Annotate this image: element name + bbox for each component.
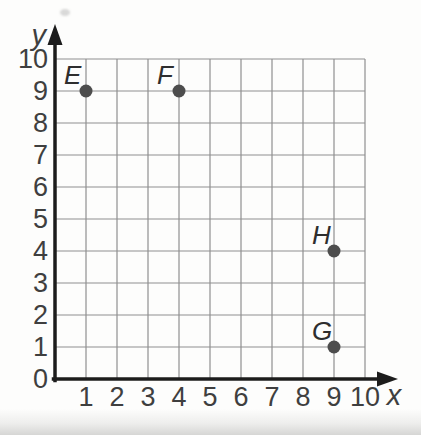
x-tick-label-1: 1 bbox=[78, 382, 93, 412]
x-axis-label: x bbox=[385, 379, 403, 411]
x-tick-label-6: 6 bbox=[233, 382, 248, 412]
y-tick-label-6: 6 bbox=[33, 172, 48, 202]
y-axis-label: y bbox=[30, 19, 48, 51]
x-tick-label-4: 4 bbox=[171, 382, 186, 412]
data-point-F bbox=[173, 85, 186, 98]
data-points-layer: EFHG bbox=[64, 60, 341, 354]
y-axis-arrowhead bbox=[48, 24, 63, 45]
point-label-H: H bbox=[312, 220, 331, 250]
x-tick-label-7: 7 bbox=[264, 382, 279, 412]
point-label-F: F bbox=[157, 60, 175, 90]
x-tick-label-5: 5 bbox=[202, 382, 217, 412]
y-tick-label-3: 3 bbox=[33, 268, 48, 298]
y-tick-label-2: 2 bbox=[33, 300, 48, 330]
y-tick-label-5: 5 bbox=[33, 204, 48, 234]
x-tick-label-10: 10 bbox=[350, 382, 380, 412]
coordinate-grid-svg: 012345678910 12345678910 EFHG y x bbox=[0, 0, 421, 435]
x-tick-label-2: 2 bbox=[109, 382, 124, 412]
y-tick-label-1: 1 bbox=[33, 332, 48, 362]
point-label-E: E bbox=[64, 60, 82, 90]
y-tick-label-8: 8 bbox=[33, 108, 48, 138]
y-tick-label-0: 0 bbox=[33, 364, 48, 394]
x-tick-label-3: 3 bbox=[140, 382, 155, 412]
coordinate-plane-figure: 012345678910 12345678910 EFHG y x bbox=[0, 0, 421, 435]
scan-smudge bbox=[60, 9, 70, 16]
y-tick-labels: 012345678910 bbox=[18, 44, 48, 394]
y-tick-label-9: 9 bbox=[33, 76, 48, 106]
y-tick-label-4: 4 bbox=[33, 236, 48, 266]
data-point-E bbox=[80, 85, 93, 98]
point-label-G: G bbox=[312, 316, 332, 346]
x-tick-label-9: 9 bbox=[326, 382, 341, 412]
x-tick-labels: 12345678910 bbox=[78, 382, 380, 412]
y-tick-label-7: 7 bbox=[33, 140, 48, 170]
x-tick-label-8: 8 bbox=[295, 382, 310, 412]
